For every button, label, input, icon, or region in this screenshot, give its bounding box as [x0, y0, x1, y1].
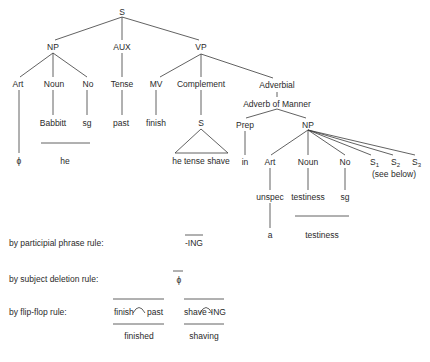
node-s-root: S — [119, 7, 125, 17]
node-complement: Complement — [177, 79, 226, 89]
branch-manner-prep — [246, 109, 277, 118]
branch-vp-adverbial — [201, 54, 273, 78]
node-testiness: testiness — [291, 192, 325, 202]
node-aux: AUX — [113, 42, 131, 52]
tree-labels: S NP AUX VP Art Noun No Tense MV Complem… — [13, 7, 422, 240]
branch-np-art — [20, 53, 53, 77]
see-below-note: (see below) — [372, 169, 416, 179]
transformation-rules: by participial phrase rule: -ING by subj… — [9, 238, 226, 341]
node-adverb-of-manner: Adverb of Manner — [243, 99, 311, 109]
node-he: he — [60, 156, 70, 166]
node-no: No — [83, 79, 94, 89]
node-s1: S1 — [370, 157, 380, 168]
embedded-s-triangle — [175, 129, 228, 153]
node-noun: Noun — [44, 79, 65, 89]
node-mv: MV — [150, 79, 163, 89]
rule-flipflop-label: by flip-flop rule: — [9, 307, 67, 317]
node-art: Art — [13, 79, 25, 89]
node-noun-2: Noun — [298, 157, 319, 167]
flipflop-arc-1 — [133, 308, 145, 314]
node-vp: VP — [195, 42, 207, 52]
node-a: a — [268, 230, 273, 240]
branch-manner-np — [277, 109, 306, 118]
flipflop-finish: finish — [114, 307, 134, 317]
rule-subject-deletion-label: by subject deletion rule: — [9, 274, 98, 284]
flipflop-ing: -ING — [208, 307, 226, 317]
flipflop-past: past — [147, 307, 164, 317]
branch-s-np — [55, 17, 122, 40]
flipflop-shave: shave — [184, 307, 207, 317]
node-in: in — [242, 157, 249, 167]
node-tense: Tense — [111, 79, 134, 89]
branch-vp-mv — [160, 54, 201, 77]
node-unspec: unspec — [256, 192, 284, 202]
node-embedded-s: S — [198, 118, 204, 128]
node-np: NP — [47, 42, 59, 52]
node-np-object: NP — [302, 120, 314, 130]
rule-participial-label: by participial phrase rule: — [9, 238, 104, 248]
node-s3: S3 — [412, 157, 422, 168]
node-finish: finish — [146, 118, 166, 128]
rule-subject-deletion-result: ϕ — [177, 275, 182, 285]
flipflop-finished: finished — [124, 331, 154, 341]
branch-np-no — [53, 53, 87, 77]
flipflop-shaving: shaving — [189, 331, 219, 341]
branch-np2-art — [271, 130, 308, 155]
node-phi: ϕ — [17, 156, 22, 166]
node-sg: sg — [83, 118, 92, 128]
node-no-2: No — [340, 157, 351, 167]
node-babbitt: Babbitt — [40, 118, 67, 128]
node-sg-2: sg — [341, 192, 350, 202]
node-prep: Prep — [236, 120, 254, 130]
node-past: past — [113, 118, 130, 128]
branch-np2-s2 — [308, 130, 393, 155]
node-testiness-result: testiness — [305, 230, 339, 240]
rule-participial-result: -ING — [185, 238, 203, 248]
branch-s-vp — [122, 17, 199, 40]
node-s2: S2 — [391, 157, 401, 168]
syntax-tree-diagram: S NP AUX VP Art Noun No Tense MV Complem… — [0, 0, 430, 362]
node-he-tense-shave: he tense shave — [172, 156, 230, 166]
node-art-2: Art — [265, 157, 277, 167]
node-adverbial: Adverbial — [259, 80, 295, 90]
